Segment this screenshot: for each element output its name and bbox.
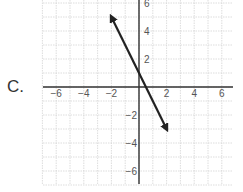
x-tick-label: 6 xyxy=(219,88,225,99)
x-tick-label: −4 xyxy=(78,88,90,99)
y-tick-label: −2 xyxy=(126,110,138,121)
y-tick-label: −6 xyxy=(126,166,138,177)
x-tick-label: 2 xyxy=(164,88,170,99)
x-tick-label: −6 xyxy=(50,88,62,99)
coordinate-plane: −6−4−2246642−2−4−6 xyxy=(0,0,243,192)
x-tick-label: 4 xyxy=(191,88,197,99)
y-tick-label: 2 xyxy=(144,54,150,65)
x-tick-label: −2 xyxy=(106,88,118,99)
y-tick-label: 4 xyxy=(144,26,150,37)
y-tick-label: 6 xyxy=(144,0,150,9)
y-tick-label: −4 xyxy=(126,138,138,149)
